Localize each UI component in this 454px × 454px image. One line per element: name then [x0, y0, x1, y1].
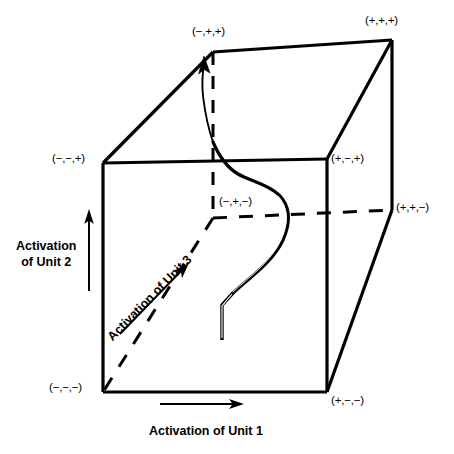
vertex-label-back-bottom-right: (+,+,−) [396, 201, 429, 213]
vertex-label-back-top-left: (−,+,+) [192, 25, 225, 37]
edge-back-top [213, 40, 392, 52]
vertex-label-back-top-right: (+,+,+) [365, 14, 398, 26]
edge-hidden-back-bottom [213, 210, 392, 218]
axis-arrow-unit1 [160, 399, 244, 409]
trajectory-curve-upper [202, 64, 213, 142]
axis-arrow-unit2 [84, 209, 94, 291]
vertex-label-front-top-right: (+,−,+) [331, 152, 364, 164]
axis-label-unit2: Activation of Unit 2 [16, 238, 76, 270]
edge-top-right-diagonal [327, 40, 392, 159]
vertex-label-front-top-left: (−,−,+) [52, 152, 85, 164]
axis-label-unit2-line2: of Unit 2 [16, 254, 76, 270]
edge-bottom-right-diagonal [327, 210, 392, 392]
axis-label-unit1: Activation of Unit 1 [149, 423, 263, 439]
cube-hidden-edges [103, 52, 392, 392]
axis-label-unit2-line1: Activation [16, 238, 76, 254]
vertex-label-back-bottom-left: (−,+,−) [219, 195, 252, 207]
vertex-label-front-bottom-right: (+,−,−) [331, 394, 364, 406]
edge-hidden-depth-diagonal [103, 218, 213, 392]
vertex-label-front-bottom-left: (−,−,−) [49, 381, 82, 393]
edge-top-left-diagonal [103, 52, 213, 163]
trajectory-curve-highlight [233, 196, 286, 292]
edge-front-top [103, 159, 327, 163]
activation-space-figure: (−,+,+) (+,+,+) (−,−,+) (+,−,+) (−,+,−) … [0, 0, 454, 454]
